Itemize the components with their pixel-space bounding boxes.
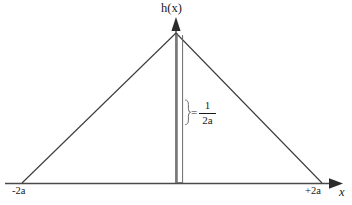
fraction-denominator: 2a: [199, 115, 215, 127]
h-axis-label: h(x): [161, 2, 182, 15]
height-fraction: 1 2a: [199, 100, 215, 126]
function-plot-figure: h(x) x -2a +2a = 1 2a: [0, 0, 352, 205]
x-tick-label-negative-2a: -2a: [12, 186, 25, 197]
triangle-left-edge: [22, 33, 176, 183]
h-axis-arrowhead: [171, 17, 180, 31]
x-axis-label: x: [339, 186, 345, 199]
x-tick-label-positive-2a: +2a: [305, 186, 321, 197]
height-brace-icon: [185, 100, 190, 125]
fraction-numerator: 1: [202, 100, 214, 112]
plot-canvas: [0, 0, 352, 205]
equals-sign: =: [191, 107, 197, 119]
peak-height-annotation: = 1 2a: [191, 100, 216, 126]
